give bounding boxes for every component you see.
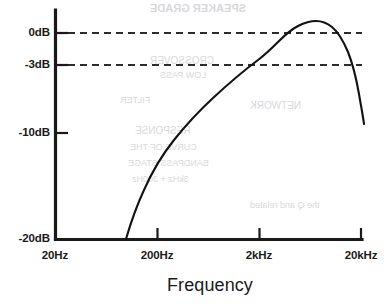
response-curve bbox=[126, 21, 364, 239]
y-axis-label-minus20db: -20dB bbox=[0, 232, 50, 244]
y-axis-label-0db: 0dB bbox=[4, 26, 50, 38]
frequency-response-chart: SPEAKER GRADECROSSOVERLOW PASSFILTERNETW… bbox=[0, 0, 389, 304]
y-axis-label-minus3db: -3dB bbox=[4, 58, 50, 70]
x-axis-label-2khz: 2kHz bbox=[229, 249, 289, 261]
x-axis-title: Frequency bbox=[120, 275, 300, 296]
x-axis-label-200hz: 200Hz bbox=[127, 249, 187, 261]
y-axis-label-minus10db: -10dB bbox=[0, 126, 50, 138]
x-axis-label-20khz: 20kHz bbox=[331, 249, 389, 261]
x-axis-label-20hz: 20Hz bbox=[25, 249, 85, 261]
